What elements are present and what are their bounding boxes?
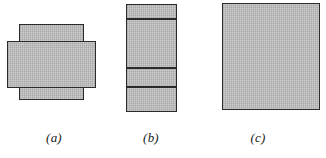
panel-c-solid-rectangle: [222, 3, 320, 110]
panel-b-divider-line-1: [127, 18, 176, 20]
panel-c-caption: (c): [242, 130, 274, 146]
panel-a-wide-rectangle: [7, 41, 96, 88]
panel-b-banded-rectangle: [126, 4, 177, 112]
panel-b-divider-line-3: [127, 86, 176, 88]
figure-root: (a) (b) (c): [0, 0, 326, 158]
panel-b-divider-line-2: [127, 67, 176, 69]
panel-a-caption: (a): [38, 130, 70, 146]
panel-b-caption: (b): [135, 130, 167, 146]
